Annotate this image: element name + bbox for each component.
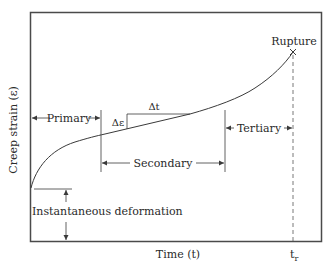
creep-curve-diagram: Primary Secondary Tertiary Δε Δt Instant… [0,0,332,274]
rupture-x-icon [290,49,296,55]
delta-time-label: Δt [148,101,159,112]
secondary-label: Secondary [134,157,194,170]
tertiary-label: Tertiary [237,122,282,135]
rupture-time-subscript: r [294,254,298,263]
instantaneous-label: Instantaneous deformation [32,205,183,218]
delta-strain-label: Δε [112,117,124,128]
y-axis-label: Creep strain (ε) [7,86,20,174]
rupture-time-label: tr [290,248,298,263]
primary-label: Primary [47,112,92,125]
x-axis-label: Time (t) [156,248,200,261]
rupture-label: Rupture [271,35,317,48]
